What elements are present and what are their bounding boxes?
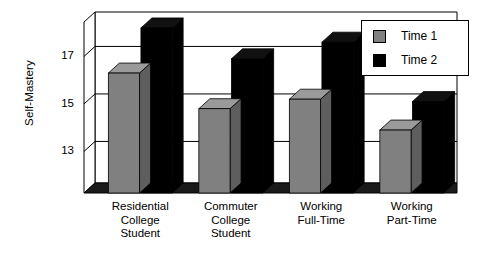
x-axis-category-label: Commuter College Student bbox=[181, 200, 281, 241]
y-axis-tick-label: 13 bbox=[50, 145, 74, 157]
legend-label-time-2: Time 2 bbox=[401, 53, 437, 67]
bar-chart: Self-Mastery 131517 Residential College … bbox=[0, 0, 488, 270]
y-axis-tick-label: 15 bbox=[50, 98, 74, 110]
legend-label-time-1: Time 1 bbox=[401, 29, 437, 43]
y-axis-title: Self-Mastery bbox=[23, 33, 35, 153]
legend: Time 1 Time 2 bbox=[361, 20, 469, 76]
x-axis-category-label: Working Full-Time bbox=[271, 200, 371, 227]
legend-swatch-time-2 bbox=[373, 54, 386, 67]
y-axis-tick-label: 17 bbox=[50, 50, 74, 62]
x-axis-category-label: Working Part-Time bbox=[362, 200, 462, 227]
x-axis-category-label: Residential College Student bbox=[90, 200, 190, 241]
legend-swatch-time-1 bbox=[373, 30, 386, 43]
